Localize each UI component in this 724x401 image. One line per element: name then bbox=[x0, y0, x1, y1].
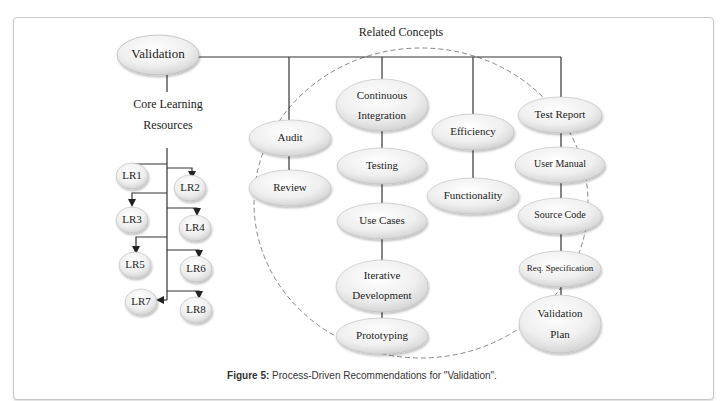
concept-node-testing[interactable]: Testing bbox=[337, 148, 427, 184]
concept-label: Plan bbox=[550, 328, 570, 340]
concept-label: Use Cases bbox=[359, 214, 405, 226]
root-node-label: Validation bbox=[131, 46, 185, 61]
concept-label: Integration bbox=[358, 109, 407, 121]
lr-node-2[interactable]: LR2 bbox=[174, 175, 206, 201]
concept-label: User Manual bbox=[534, 158, 586, 169]
lr-node-3[interactable]: LR3 bbox=[116, 207, 148, 233]
concept-label: Efficiency bbox=[450, 125, 496, 137]
concept-label: Prototyping bbox=[356, 329, 408, 341]
concept-node-use-cases[interactable]: Use Cases bbox=[337, 203, 427, 239]
concept-label: Audit bbox=[277, 131, 302, 143]
lr-label: LR5 bbox=[125, 258, 145, 270]
lr-node-4[interactable]: LR4 bbox=[179, 215, 211, 241]
concept-node-req-specification[interactable]: Req. Specification bbox=[519, 251, 601, 287]
concept-node-efficiency[interactable]: Efficiency bbox=[432, 114, 514, 150]
lr-label: LR3 bbox=[122, 213, 142, 225]
concept-node-validation-plan[interactable]: ValidationPlan bbox=[519, 295, 601, 353]
lr-node-8[interactable]: LR8 bbox=[180, 297, 212, 323]
lr-node-1[interactable]: LR1 bbox=[116, 163, 148, 189]
concept-label: Continuous bbox=[357, 89, 408, 101]
lr-label: LR4 bbox=[185, 221, 205, 233]
concept-node-iterative-development[interactable]: IterativeDevelopment bbox=[336, 260, 428, 312]
concept-label: Review bbox=[273, 181, 307, 193]
core-learning-label-line2: Resources bbox=[143, 118, 193, 132]
concept-label: Req. Specification bbox=[527, 263, 594, 273]
lr-node-6[interactable]: LR6 bbox=[180, 256, 212, 282]
lr-label: LR7 bbox=[131, 295, 151, 307]
concept-label: Validation bbox=[537, 307, 583, 319]
concept-node-review[interactable]: Review bbox=[249, 170, 331, 206]
concept-node-audit[interactable]: Audit bbox=[249, 120, 331, 156]
caption-text: Process-Driven Recommendations for "Vali… bbox=[269, 370, 497, 381]
concept-node-test-report[interactable]: Test Report bbox=[518, 97, 602, 133]
lr-label: LR6 bbox=[186, 262, 206, 274]
root-node-validation[interactable]: Validation bbox=[117, 35, 199, 75]
related-concepts-label: Related Concepts bbox=[359, 25, 444, 39]
lr-node-5[interactable]: LR5 bbox=[119, 252, 151, 278]
concept-node-user-manual[interactable]: User Manual bbox=[515, 147, 605, 183]
lr-nodes: LR1 LR2 LR3 LR4 LR5 LR6 LR7 LR8 bbox=[116, 163, 212, 323]
concept-label: Iterative bbox=[364, 269, 401, 281]
core-learning-label-line1: Core Learning bbox=[133, 97, 203, 111]
concept-node-continuous-integration[interactable]: ContinuousIntegration bbox=[336, 79, 428, 131]
concept-label: Testing bbox=[366, 159, 399, 171]
lr-label: LR2 bbox=[180, 181, 200, 193]
lr-node-7[interactable]: LR7 bbox=[125, 289, 157, 315]
concept-node-source-code[interactable]: Source Code bbox=[518, 198, 602, 234]
concept-label: Functionality bbox=[444, 189, 503, 201]
diagram-canvas: Related Concepts Core Learning Resources… bbox=[0, 0, 724, 401]
caption-prefix: Figure 5: bbox=[227, 370, 269, 381]
concept-label: Development bbox=[352, 289, 411, 301]
figure-caption: Figure 5: Process-Driven Recommendations… bbox=[0, 370, 724, 381]
concept-node-functionality[interactable]: Functionality bbox=[427, 178, 519, 214]
lr-label: LR8 bbox=[186, 303, 206, 315]
concept-label: Source Code bbox=[534, 209, 586, 220]
concept-label: Test Report bbox=[535, 108, 586, 120]
lr-label: LR1 bbox=[122, 169, 142, 181]
concept-node-prototyping[interactable]: Prototyping bbox=[336, 318, 428, 354]
